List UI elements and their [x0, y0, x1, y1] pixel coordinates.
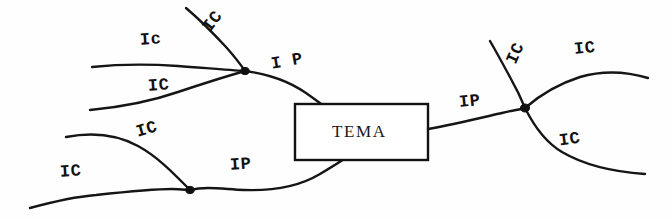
diagram-canvas: TEMA Ic IC I P IC IC IC IP IP IC IC IC — [0, 0, 672, 220]
ip-right-curve — [428, 108, 525, 129]
edge-label-ic-bottom-left: IC — [59, 161, 82, 181]
ic-top-left-upper-curve — [92, 65, 245, 71]
edge-label-ic-top-left-upper: Ic — [139, 29, 162, 49]
ic-right-top-curve — [525, 73, 648, 108]
ic-right-bottom-curve — [525, 108, 645, 174]
ip-lower-left-curve — [190, 157, 347, 190]
edge-label-ic-right-bottom: IC — [558, 129, 582, 151]
edge-label-ip-lower-left: IP — [229, 154, 252, 174]
node-right-junction — [520, 104, 529, 112]
ic-bottom-left-curve — [30, 189, 190, 208]
node-upper-left-junction — [241, 67, 249, 74]
node-lower-left-junction — [186, 186, 194, 193]
edge-label-ic-upper-left-lower: IC — [147, 75, 170, 95]
diagram-strokes — [0, 0, 672, 220]
tema-box-label: TEMA — [332, 122, 387, 142]
ip-upper-left-curve — [245, 71, 324, 106]
ic-mid-left-curve — [66, 134, 190, 190]
edge-label-ip-right: IP — [458, 91, 481, 112]
edge-label-ic-right-top: IC — [573, 38, 596, 59]
